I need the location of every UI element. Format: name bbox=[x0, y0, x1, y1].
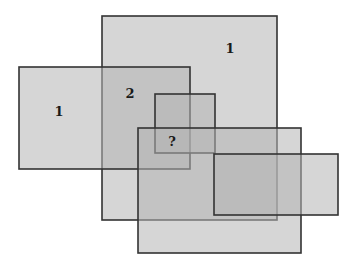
label-overlap-2: 2 bbox=[125, 86, 134, 101]
overlap-diagram: 1 1 2 ? bbox=[0, 0, 352, 268]
rectangle-e bbox=[214, 154, 338, 215]
label-region-b-1: 1 bbox=[54, 104, 63, 119]
rectangles-group bbox=[19, 16, 338, 253]
label-region-a-1: 1 bbox=[225, 41, 234, 56]
label-question-mark: ? bbox=[168, 134, 176, 149]
